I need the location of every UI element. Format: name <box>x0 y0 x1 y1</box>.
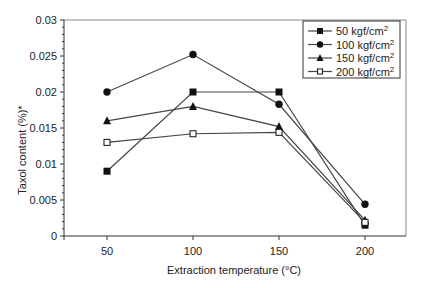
legend-label: 100 kgf/cm2 <box>336 38 395 51</box>
filled-circle-marker <box>103 88 110 95</box>
y-tick-label: 0.005 <box>29 194 57 206</box>
filled-square-marker <box>276 89 283 96</box>
y-tick-label: 0.015 <box>29 122 57 134</box>
y-tick-label: 0.02 <box>36 86 57 98</box>
legend: 50 kgf/cm2100 kgf/cm2150 kgf/cm2200 kgf/… <box>303 21 400 78</box>
filled-square-marker <box>317 28 323 34</box>
series-150-kgf <box>107 106 365 220</box>
filled-square-marker <box>190 89 197 96</box>
x-tick-label: 150 <box>270 245 288 257</box>
legend-label: 200 kgf/cm2 <box>336 65 395 78</box>
x-axis: 50100150200 <box>64 236 406 257</box>
x-tick-label: 100 <box>184 245 202 257</box>
legend-label: 50 kgf/cm2 <box>336 24 389 37</box>
open-square-marker <box>104 139 110 145</box>
series-line <box>107 106 365 220</box>
x-tick-label: 50 <box>101 245 113 257</box>
filled-triangle-marker <box>189 102 197 110</box>
open-square-marker <box>276 129 282 135</box>
series-markers <box>104 129 368 225</box>
filled-circle-marker <box>275 101 282 108</box>
filled-circle-marker <box>317 41 323 47</box>
y-tick-label: 0.01 <box>36 158 57 170</box>
line-chart: 00.0050.010.0150.020.0250.03 50100150200… <box>0 0 423 288</box>
y-tick-label: 0.025 <box>29 50 57 62</box>
y-tick-label: 0.03 <box>36 14 57 26</box>
open-square-marker <box>190 131 196 137</box>
filled-square-marker <box>104 168 111 175</box>
open-square-marker <box>362 219 368 225</box>
y-axis-title: Taxol content (%)* <box>16 105 28 195</box>
x-axis-title: Extraction temperature (°C) <box>167 264 301 276</box>
open-square-marker <box>318 69 323 74</box>
filled-circle-marker <box>189 51 196 58</box>
legend-label: 150 kgf/cm2 <box>336 51 395 64</box>
series-markers <box>104 89 369 229</box>
x-tick-label: 200 <box>356 245 374 257</box>
y-tick-label: 0 <box>51 230 57 242</box>
filled-circle-marker <box>361 201 368 208</box>
y-axis: 00.0050.010.0150.020.0250.03 <box>29 14 64 242</box>
